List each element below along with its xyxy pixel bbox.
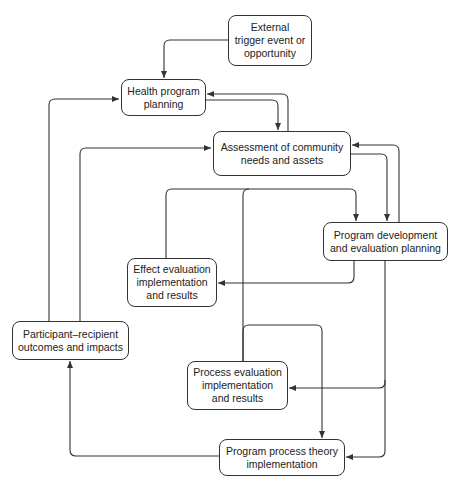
node-text: Assessment of community bbox=[221, 141, 344, 154]
node-text: planning bbox=[127, 98, 199, 111]
node-text: Program process theory bbox=[226, 445, 338, 458]
node-text: and results bbox=[133, 289, 210, 302]
node-text: and evaluation planning bbox=[330, 242, 441, 255]
node-assessment: Assessment of community needs and assets bbox=[213, 131, 351, 176]
node-text: Process evaluation bbox=[193, 366, 282, 379]
node-program-development: Program development and evaluation plann… bbox=[323, 222, 448, 261]
node-text: and results bbox=[193, 392, 282, 405]
node-text: Participant–recipient bbox=[18, 328, 123, 341]
node-text: Health program bbox=[127, 85, 199, 98]
edge-health-planning-to-assessment bbox=[205, 100, 278, 130]
edge-program-development-to-assessment bbox=[352, 145, 399, 222]
edge-program-development-to-process-theory bbox=[346, 380, 385, 457]
node-text: implementation bbox=[133, 276, 210, 289]
node-effect-evaluation: Effect evaluation implementation and res… bbox=[127, 258, 217, 307]
node-text: needs and assets bbox=[221, 154, 344, 167]
node-text: trigger event or bbox=[235, 34, 306, 47]
edge-external-to-health-planning bbox=[164, 40, 228, 78]
node-health-program-planning: Health program planning bbox=[121, 79, 206, 116]
node-process-evaluation: Process evaluation implementation and re… bbox=[187, 361, 288, 410]
edge-participant-to-health-planning bbox=[49, 99, 119, 321]
node-text: opportunity bbox=[235, 47, 306, 60]
edge-process-evaluation-to-program-development bbox=[243, 189, 249, 361]
node-text: Program development bbox=[330, 229, 441, 242]
node-text: outcomes and impacts bbox=[18, 341, 123, 354]
node-text: implementation bbox=[193, 379, 282, 392]
edge-program-development-to-effect-evaluation bbox=[218, 260, 354, 283]
node-process-theory: Program process theory implementation bbox=[219, 439, 345, 476]
edge-program-development-to-process-evaluation bbox=[289, 260, 385, 388]
node-text: Effect evaluation bbox=[133, 263, 210, 276]
node-text: implementation bbox=[226, 458, 338, 471]
node-external-trigger: External trigger event or opportunity bbox=[228, 15, 312, 66]
node-participant-outcomes: Participant–recipient outcomes and impac… bbox=[12, 321, 129, 360]
node-text: External bbox=[235, 21, 306, 34]
